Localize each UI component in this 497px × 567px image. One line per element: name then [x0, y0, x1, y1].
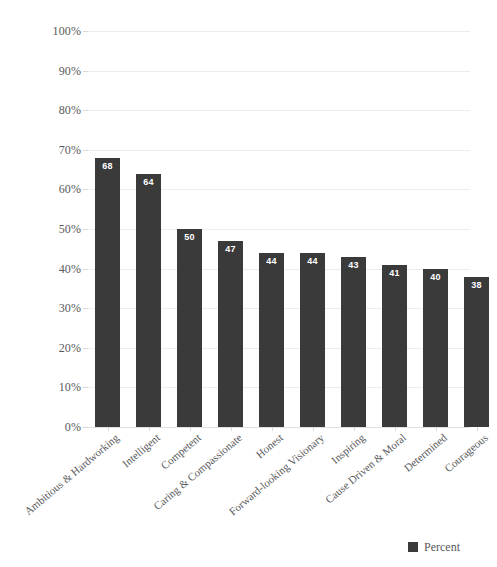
- y-axis-tick-label: 40%: [18, 263, 88, 275]
- plot-area: 68645047444443414038: [88, 31, 470, 427]
- bar[interactable]: 68: [95, 158, 120, 427]
- x-axis-category-label: Intelligent: [0, 432, 162, 567]
- bar[interactable]: 40: [423, 269, 448, 427]
- y-axis-tick-label: 70%: [18, 144, 88, 156]
- x-axis-tick-mark: [354, 427, 355, 431]
- y-axis-tick-label: 10%: [18, 381, 88, 393]
- bar-value-label: 41: [382, 269, 407, 278]
- bar[interactable]: 44: [300, 253, 325, 427]
- x-axis-tick-mark: [313, 427, 314, 431]
- bar-value-label: 43: [341, 261, 366, 270]
- y-axis-tick-label: 60%: [18, 183, 88, 195]
- x-axis-tick-mark: [108, 427, 109, 431]
- y-axis-tick-label: 30%: [18, 302, 88, 314]
- bar-value-label: 44: [259, 257, 284, 266]
- x-axis-tick-mark: [436, 427, 437, 431]
- y-axis-tick-label: 0%: [18, 421, 88, 433]
- y-axis-tick-label: 20%: [18, 342, 88, 354]
- y-axis-tick-label: 100%: [18, 25, 88, 37]
- bar[interactable]: 38: [464, 277, 489, 427]
- bar-value-label: 64: [136, 178, 161, 187]
- x-axis-tick-mark: [477, 427, 478, 431]
- axis-baseline: [88, 427, 470, 428]
- bar-value-label: 40: [423, 273, 448, 282]
- legend-label[interactable]: Percent: [424, 541, 460, 553]
- y-axis-tick-label: 90%: [18, 65, 88, 77]
- x-axis-tick-mark: [231, 427, 232, 431]
- bar-value-label: 44: [300, 257, 325, 266]
- bar[interactable]: 47: [218, 241, 243, 427]
- x-axis-tick-mark: [149, 427, 150, 431]
- square-swatch-icon: [408, 542, 418, 552]
- bar-value-label: 68: [95, 162, 120, 171]
- y-axis-tick-label: 80%: [18, 104, 88, 116]
- y-axis-tick-label: 50%: [18, 223, 88, 235]
- chart-legend: Percent: [408, 541, 460, 553]
- bar[interactable]: 44: [259, 253, 284, 427]
- x-axis-tick-mark: [272, 427, 273, 431]
- x-axis-tick-mark: [395, 427, 396, 431]
- bar-value-label: 38: [464, 281, 489, 290]
- x-axis-tick-mark: [190, 427, 191, 431]
- bar[interactable]: 50: [177, 229, 202, 427]
- bar-chart: 100%90%80%70%60%50%40%30%20%10%0% 686450…: [0, 0, 497, 567]
- bar[interactable]: 64: [136, 174, 161, 427]
- bar[interactable]: 43: [341, 257, 366, 427]
- bar-value-label: 50: [177, 233, 202, 242]
- bar-value-label: 47: [218, 245, 243, 254]
- bar[interactable]: 41: [382, 265, 407, 427]
